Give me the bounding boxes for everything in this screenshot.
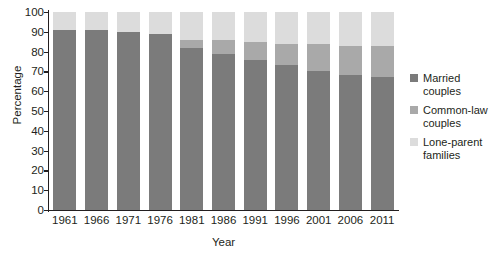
bar-1981: [180, 12, 203, 210]
y-tick-label: 30: [14, 146, 44, 156]
x-tick-label: 2011: [360, 214, 404, 227]
bar-2001: [307, 12, 330, 210]
bar-segment: [85, 30, 108, 210]
bar-1996: [275, 12, 298, 210]
bar-segment: [53, 12, 76, 30]
y-tick-label: 70: [14, 66, 44, 76]
bar-segment: [339, 46, 362, 76]
bar-segment: [371, 46, 394, 78]
y-tick-mark: [44, 111, 48, 112]
bar-segment: [180, 40, 203, 48]
y-tick-label: 20: [14, 165, 44, 175]
bar-2011: [371, 12, 394, 210]
bar-1966: [85, 12, 108, 210]
bar-segment: [244, 60, 267, 210]
bar-segment: [339, 12, 362, 46]
x-axis-title: Year: [49, 236, 398, 248]
bar-segment: [371, 77, 394, 210]
legend-label: Married couples: [423, 72, 461, 97]
legend-item[interactable]: Common-law couples: [410, 104, 503, 129]
bar-1976: [149, 12, 172, 210]
y-tick-label: 50: [14, 106, 44, 116]
legend: Married couplesCommon-law couplesLone-pa…: [410, 72, 503, 168]
y-tick-mark: [44, 91, 48, 92]
legend-item[interactable]: Lone-parent families: [410, 136, 503, 161]
bar-segment: [149, 34, 172, 210]
bar-segment: [180, 12, 203, 40]
bar-segment: [53, 30, 76, 210]
bar-segment: [117, 12, 140, 32]
legend-swatch-icon: [410, 106, 418, 114]
y-tick-label: 0: [14, 205, 44, 215]
y-tick-mark: [44, 190, 48, 191]
legend-label: Lone-parent families: [423, 136, 482, 161]
y-tick-mark: [44, 151, 48, 152]
y-tick-mark: [44, 12, 48, 13]
y-tick-mark: [44, 52, 48, 53]
bar-segment: [339, 75, 362, 210]
legend-swatch-icon: [410, 74, 418, 82]
bar-segment: [275, 65, 298, 210]
bar-segment: [85, 12, 108, 30]
bar-segment: [117, 32, 140, 210]
legend-item[interactable]: Married couples: [410, 72, 503, 97]
bar-segment: [275, 12, 298, 44]
x-axis-line: [48, 210, 399, 211]
legend-label: Common-law couples: [423, 104, 488, 129]
bar-segment: [180, 48, 203, 210]
bar-segment: [149, 12, 172, 34]
y-axis-tick-labels: 0102030405060708090100: [14, 0, 44, 259]
y-tick-mark: [44, 131, 48, 132]
legend-swatch-icon: [410, 138, 418, 146]
bar-1991: [244, 12, 267, 210]
bar-segment: [371, 12, 394, 46]
bar-segment: [307, 71, 330, 210]
bar-segment: [244, 42, 267, 60]
bar-segment: [275, 44, 298, 66]
bar-segment: [307, 44, 330, 72]
y-tick-label: 40: [14, 126, 44, 136]
y-tick-label: 60: [14, 86, 44, 96]
stacked-bar-chart: Percentage 0102030405060708090100 196119…: [0, 0, 503, 259]
bar-1961: [53, 12, 76, 210]
bar-segment: [307, 12, 330, 44]
y-tick-mark: [44, 170, 48, 171]
y-tick-mark: [44, 71, 48, 72]
y-tick-mark: [44, 210, 48, 211]
bar-segment: [212, 54, 235, 210]
bar-2006: [339, 12, 362, 210]
y-tick-label: 90: [14, 27, 44, 37]
bar-segment: [212, 40, 235, 54]
bar-segment: [244, 12, 267, 42]
y-tick-label: 100: [14, 7, 44, 17]
bar-segment: [212, 12, 235, 40]
y-axis-line: [48, 10, 49, 212]
bar-1986: [212, 12, 235, 210]
bar-1971: [117, 12, 140, 210]
y-tick-mark: [44, 32, 48, 33]
y-tick-label: 80: [14, 47, 44, 57]
y-tick-label: 10: [14, 185, 44, 195]
plot-area: 1961196619711976198119861991199620012006…: [49, 12, 398, 210]
